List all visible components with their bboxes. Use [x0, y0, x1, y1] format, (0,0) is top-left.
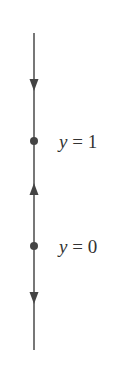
- equilibrium-value: 0: [88, 236, 98, 257]
- variable-name: y: [59, 131, 67, 152]
- variable-name: y: [59, 236, 67, 257]
- arrow-down-icon: [30, 79, 39, 91]
- equals-sign: =: [72, 236, 83, 257]
- equilibrium-point-y1: [30, 137, 38, 145]
- arrow-down-icon: [30, 292, 39, 304]
- phase-line-diagram: [0, 0, 131, 375]
- equilibrium-value: 1: [88, 131, 98, 152]
- equilibrium-label-y0: y = 0: [59, 237, 97, 256]
- arrow-up-icon: [30, 183, 39, 195]
- equals-sign: =: [72, 131, 83, 152]
- equilibrium-point-y0: [30, 242, 38, 250]
- equilibrium-label-y1: y = 1: [59, 132, 97, 151]
